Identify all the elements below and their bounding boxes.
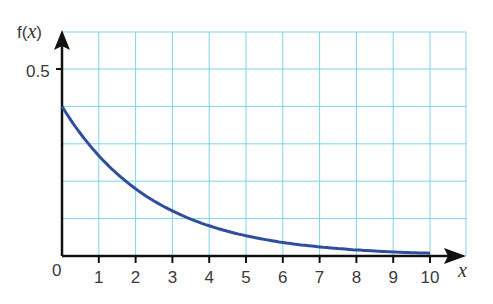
origin-label: 0	[52, 261, 61, 280]
y-tick-label: 0.5	[26, 62, 50, 81]
grid	[62, 32, 466, 256]
x-tick-label: 4	[204, 268, 213, 287]
x-tick-label: 6	[278, 268, 287, 287]
x-tick-label: 1	[94, 268, 103, 287]
x-tick-label: 9	[388, 268, 397, 287]
x-tick-label: 8	[352, 268, 361, 287]
chart: 12345678910 0.5 f(x) x 0	[0, 0, 493, 304]
x-tick-label: 10	[421, 268, 440, 287]
x-axis-title: x	[457, 259, 467, 281]
x-tick-label: 7	[315, 268, 324, 287]
x-ticks: 12345678910	[94, 256, 439, 287]
axes	[54, 30, 466, 264]
x-tick-label: 3	[168, 268, 177, 287]
x-tick-label: 2	[131, 268, 140, 287]
x-tick-label: 5	[241, 268, 250, 287]
y-axis-title: f(x)	[17, 20, 42, 42]
